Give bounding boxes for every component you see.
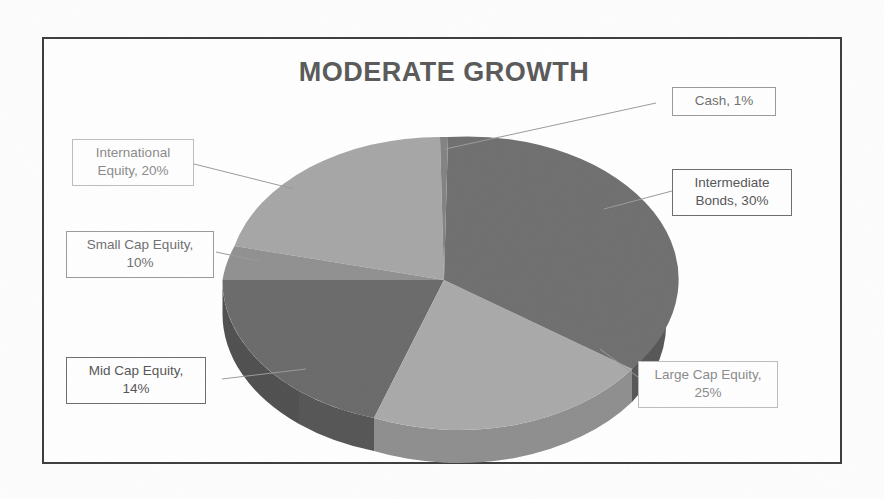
- screenshot-canvas: MODERATE GROWTH: [0, 0, 884, 499]
- leader-line-cash: [445, 103, 656, 149]
- callout-cash: Cash, 1%: [672, 87, 776, 116]
- callout-small-cap-equity: Small Cap Equity, 10%: [66, 231, 214, 278]
- pie-top-face: [222, 136, 678, 430]
- callout-intermediate-bonds: Intermediate Bonds, 30%: [672, 169, 792, 216]
- leader-line-international: [194, 164, 294, 189]
- callout-large-cap-equity: Large Cap Equity, 25%: [638, 361, 778, 408]
- callout-international-equity: International Equity, 20%: [72, 139, 194, 186]
- chart-frame: MODERATE GROWTH: [42, 37, 842, 464]
- callout-mid-cap-equity: Mid Cap Equity, 14%: [66, 357, 206, 404]
